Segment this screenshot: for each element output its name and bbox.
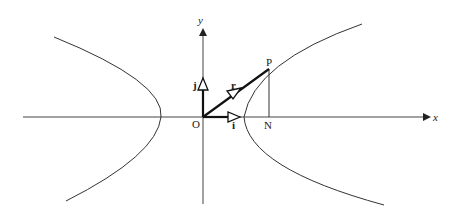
x-axis-label: x	[432, 111, 438, 123]
unit-vector-j-label: j	[192, 79, 197, 91]
point-N-label: N	[264, 119, 272, 131]
hyperbola-diagram: y x O j i r P N	[0, 0, 458, 220]
position-vector-r-label: r	[231, 79, 236, 91]
unit-vector-i-label: i	[232, 119, 235, 131]
vector-j-arrowhead-icon	[198, 78, 208, 90]
point-P-label: P	[266, 56, 272, 68]
hyperbola-left-branch	[54, 37, 161, 201]
origin-label: O	[192, 118, 200, 130]
y-axis-label: y	[197, 14, 203, 26]
hyperbola-right-branch	[244, 24, 384, 205]
